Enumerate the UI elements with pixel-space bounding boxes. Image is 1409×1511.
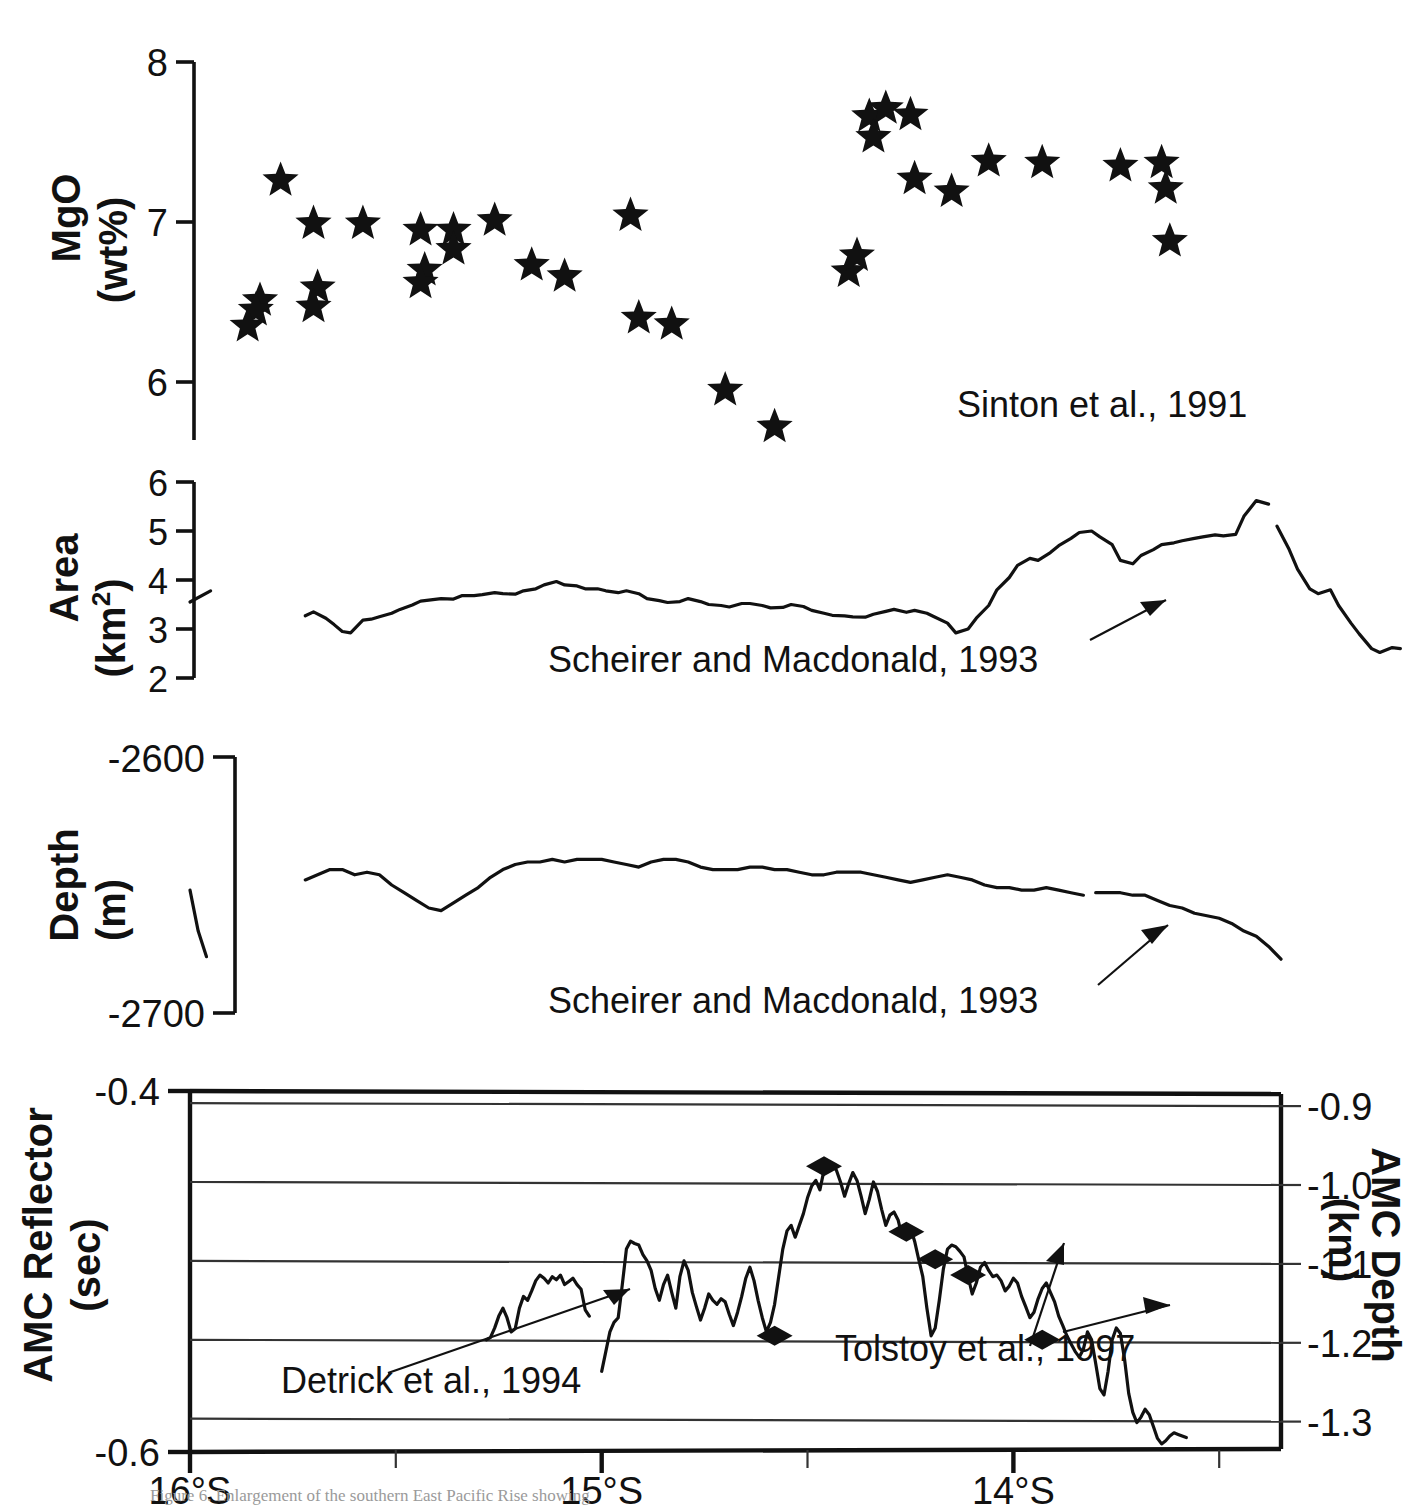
depth-axis-title-line2: (m) — [89, 879, 133, 941]
amc-annotation-tolstoy: Tolstoy et al., 1997 — [835, 1328, 1135, 1369]
depth-series — [190, 859, 1281, 959]
mgo-star-marker — [892, 96, 928, 130]
area-series — [190, 501, 1400, 653]
depth-ytick-label-2700: -2700 — [108, 993, 205, 1035]
area-ytick-label-2: 2 — [148, 659, 168, 700]
figure-root: 8 7 6 MgO (wt%) Sinton et al., 1991 6 5 … — [0, 0, 1409, 1511]
amc-gridline — [190, 1182, 1281, 1185]
amc-bottom-axis — [190, 1449, 1281, 1452]
mgo-star-marker — [1102, 147, 1138, 181]
depth-arrowhead-icon — [1141, 925, 1168, 944]
mgo-star-marker — [707, 371, 743, 405]
mgo-star-marker — [435, 230, 471, 264]
mgo-star-marker — [345, 205, 381, 239]
area-axis-title-line2-group: (km2) — [86, 579, 133, 678]
mgo-star-marker — [263, 161, 299, 195]
mgo-star-marker — [300, 269, 336, 303]
amc-right-tick-label: -0.9 — [1307, 1086, 1372, 1128]
amc-left-label-top: -0.4 — [95, 1071, 160, 1113]
depth-line-segment — [305, 859, 1083, 910]
mgo-star-marker — [514, 246, 550, 280]
area-ytick-label-3: 3 — [148, 610, 168, 651]
depth-axis-title-line1: Depth — [42, 828, 86, 941]
amc-right-axis-title-line1: AMC Depth — [1364, 1147, 1408, 1363]
area-line-segment — [1277, 526, 1401, 652]
amc-arrowhead-tolstoy-2-icon — [1143, 1297, 1170, 1314]
mgo-star-marker — [477, 201, 513, 235]
area-annotation-scheirer: Scheirer and Macdonald, 1993 — [548, 639, 1038, 680]
mgo-star-marker — [971, 142, 1007, 176]
depth-annotation-scheirer: Scheirer and Macdonald, 1993 — [548, 980, 1038, 1021]
amc-left-label-bottom: -0.6 — [95, 1432, 160, 1474]
area-line-segment — [305, 501, 1268, 633]
area-ytick-label-5: 5 — [148, 512, 168, 553]
mgo-ytick-label-6: 6 — [147, 362, 168, 404]
panel-depth: -2600 -2700 Depth (m) Scheirer and Macdo… — [42, 738, 1281, 1035]
amc-diamond-marker — [757, 1326, 793, 1346]
amc-gridline — [190, 1419, 1281, 1422]
mgo-axis-title-line2: (wt%) — [91, 197, 135, 304]
panel-mgo: 8 7 6 MgO (wt%) Sinton et al., 1991 — [44, 42, 1247, 442]
mgo-star-marker — [1024, 144, 1060, 178]
panel-amc: -0.9-1.0-1.1-1.2-1.3 -0.4 -0.6 AMC Refle… — [16, 1071, 1408, 1511]
panel-area: 6 5 4 3 2 Area (km2) Scheirer and Macdon… — [42, 463, 1400, 700]
mgo-star-marker — [757, 408, 793, 442]
area-axis-title-line1: Area — [42, 533, 86, 623]
figure-caption: Figure 6. Enlargement of the southern Ea… — [150, 1486, 1350, 1510]
mgo-star-marker — [295, 205, 331, 239]
amc-right-tick-label: -1.3 — [1307, 1402, 1372, 1444]
mgo-star-marker — [1152, 222, 1188, 256]
amc-left-axis-title-line2: (sec) — [64, 1218, 108, 1311]
mgo-annotation-sinton: Sinton et al., 1991 — [957, 384, 1247, 425]
amc-top-border — [190, 1091, 1281, 1094]
amc-line-segment — [602, 1162, 1187, 1444]
amc-right-axis-title-line2: (km) — [1321, 1198, 1365, 1282]
mgo-ytick-label-7: 7 — [147, 202, 168, 244]
mgo-star-marker — [612, 197, 648, 231]
mgo-star-marker — [897, 160, 933, 194]
amc-left-axis-title-line1: AMC Reflector — [16, 1107, 60, 1383]
area-arrowhead-icon — [1140, 600, 1166, 616]
area-axis-title-line2: (km2) — [86, 579, 133, 678]
mgo-star-marker — [621, 299, 657, 333]
mgo-star-marker — [1144, 144, 1180, 178]
amc-right-tick-label: -1.2 — [1307, 1323, 1372, 1365]
mgo-ytick-label-8: 8 — [147, 42, 168, 84]
depth-ytick-label-2600: -2600 — [108, 738, 205, 780]
mgo-star-marker — [654, 305, 690, 339]
mgo-star-marker — [403, 211, 439, 245]
figure-svg: 8 7 6 MgO (wt%) Sinton et al., 1991 6 5 … — [0, 0, 1409, 1511]
depth-line-segment — [1096, 893, 1281, 960]
mgo-star-marker — [547, 257, 583, 291]
mgo-star-marker — [295, 288, 331, 322]
amc-gridline — [190, 1261, 1281, 1264]
area-ytick-label-4: 4 — [148, 561, 168, 602]
mgo-axis-title-line1: MgO — [44, 174, 88, 263]
mgo-star-marker — [934, 173, 970, 207]
depth-line-segment — [190, 890, 207, 957]
amc-arrowhead-tolstoy-1-icon — [1046, 1243, 1064, 1265]
amc-annotation-detrick: Detrick et al., 1994 — [281, 1360, 581, 1401]
amc-diamond-marker — [888, 1222, 924, 1242]
amc-gridline — [190, 1103, 1281, 1106]
area-ytick-label-6: 6 — [148, 463, 168, 504]
